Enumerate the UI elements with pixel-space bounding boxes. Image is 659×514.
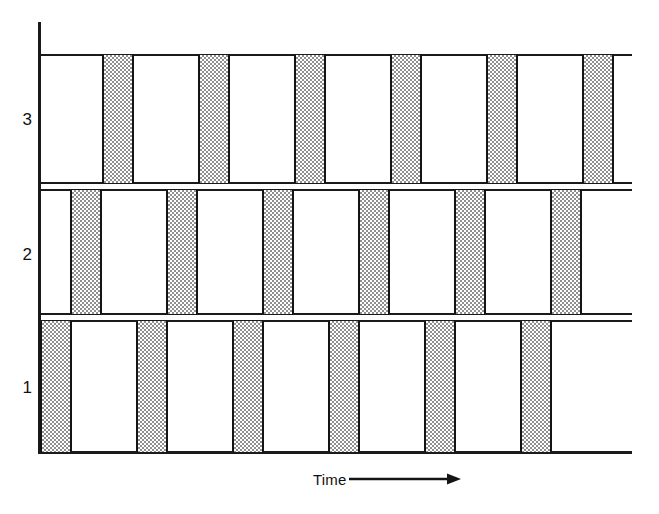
bar-row-1-5: [424, 321, 456, 452]
bar-row-3-5: [486, 55, 518, 183]
bar-row-2-6: [550, 190, 582, 314]
bar-row-3-1: [102, 55, 134, 183]
timeline-figure: 3 2 1 Time: [0, 0, 659, 514]
bar-row-3-2: [198, 55, 230, 183]
bar-row-2-4: [358, 190, 390, 314]
track-row-3: [40, 54, 632, 184]
y-tick-label-3: 3: [10, 110, 32, 130]
track-row-1: [40, 320, 632, 453]
bar-row-3-6: [582, 55, 614, 183]
bar-row-2-1: [70, 190, 102, 314]
bar-row-1-6: [520, 321, 552, 452]
x-axis-label: Time: [313, 471, 347, 488]
x-axis-caption: Time: [313, 468, 461, 490]
row-2-top-rule: [40, 189, 632, 191]
row-2-bottom-rule: [40, 313, 632, 315]
bar-row-3-3: [294, 55, 326, 183]
time-arrow-icon: [349, 472, 461, 486]
track-row-2: [40, 189, 632, 315]
bar-row-2-5: [454, 190, 486, 314]
bar-row-1-2: [136, 321, 168, 452]
bar-row-1-1: [40, 321, 72, 452]
y-tick-label-2: 2: [10, 245, 32, 265]
bar-row-3-4: [390, 55, 422, 183]
bar-row-2-2: [166, 190, 198, 314]
y-tick-label-1: 1: [10, 378, 32, 398]
bar-row-1-3: [232, 321, 264, 452]
bar-row-1-4: [328, 321, 360, 452]
bar-row-2-3: [262, 190, 294, 314]
